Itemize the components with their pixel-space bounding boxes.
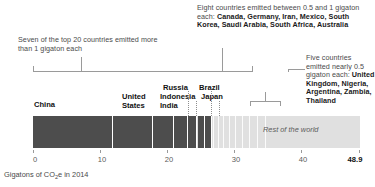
- seven-top-countries-note: Seven of the top 20 countries emitted mo…: [18, 36, 168, 53]
- axis-caption-prefix: Gigatons of CO: [4, 170, 55, 179]
- russia-text: Russia: [163, 83, 188, 92]
- stripe: [229, 116, 230, 148]
- five-countries-leader-h: [288, 69, 305, 70]
- axis-tick: [100, 150, 101, 153]
- us-line2: States: [122, 101, 145, 110]
- segment-japan: [188, 116, 197, 148]
- segment-united-states: [113, 116, 153, 148]
- axis-tick: [301, 150, 302, 153]
- five-countries-leader-v: [288, 69, 289, 72]
- five-countries-bar-bracket-right: [280, 101, 281, 106]
- country-label-united-states: United States: [122, 92, 146, 110]
- stripe: [213, 116, 214, 148]
- axis-tick: [234, 150, 235, 153]
- infographic-root: Seven of the top 20 countries emitted mo…: [0, 0, 375, 187]
- five-countries-note: Five countries emitted nearly 0.5 gigato…: [306, 54, 375, 106]
- axis-caption-suffix: e in 2014: [58, 170, 88, 179]
- axis-tick: [167, 150, 168, 153]
- stacked-bar: Rest of the world: [33, 116, 360, 148]
- eight-countries-note: Eight countries emitted between 0.5 and …: [197, 4, 372, 30]
- five-countries-bar-bracket: [250, 101, 280, 102]
- country-label-russia: Russia: [163, 83, 188, 92]
- country-label-china: China: [34, 100, 55, 109]
- stripe: [242, 116, 243, 148]
- country-label-brazil: Brazil: [199, 83, 220, 92]
- stripe: [257, 116, 258, 148]
- india-text: India: [160, 101, 178, 110]
- leader-indonesia: [196, 101, 197, 116]
- five-countries-bar-bracket-stem: [265, 92, 266, 101]
- stripe: [235, 116, 236, 148]
- country-label-india: India: [160, 101, 178, 110]
- axis-label-30: 30: [232, 155, 240, 164]
- us-line1: United: [122, 92, 146, 101]
- axis-tick: [33, 150, 34, 153]
- axis-label-10: 10: [98, 155, 106, 164]
- leader-japan: [219, 101, 220, 116]
- eight-countries-list: Canada, Germany, Iran, Mexico, South Kor…: [197, 12, 349, 30]
- stripe: [218, 116, 219, 148]
- stripe: [249, 116, 250, 148]
- rest-of-world-label: Rest of the world: [263, 125, 318, 134]
- indonesia-text: Indonesia: [160, 92, 195, 101]
- segment-china: [33, 116, 113, 148]
- axis-label-40: 40: [299, 155, 307, 164]
- axis-label-0: 0: [33, 155, 37, 164]
- axis-tick: [359, 150, 360, 153]
- china-text: China: [34, 100, 55, 109]
- axis-label-20: 20: [165, 155, 173, 164]
- segment-india: [153, 116, 174, 148]
- left-bracket-end-right: [252, 66, 253, 72]
- stripe: [223, 116, 224, 148]
- segment-brazil: [205, 116, 212, 148]
- segment-indonesia: [198, 116, 205, 148]
- eight-countries-leader: [222, 48, 223, 71]
- axis-label-total: 48.9: [348, 155, 363, 164]
- leader-brazil: [211, 91, 212, 116]
- left-bracket-stem: [81, 57, 82, 72]
- brazil-text: Brazil: [199, 83, 220, 92]
- left-bracket-span: [33, 71, 253, 72]
- axis-caption: Gigatons of CO2e in 2014: [4, 170, 88, 180]
- five-countries-bar-bracket-left: [250, 101, 251, 106]
- seven-top-countries-text: Seven of the top 20 countries emitted mo…: [18, 35, 158, 53]
- country-label-indonesia: Indonesia: [160, 92, 195, 101]
- leader-russia: [188, 91, 189, 116]
- segment-russia: [174, 116, 188, 148]
- left-bracket-end-left: [33, 66, 34, 72]
